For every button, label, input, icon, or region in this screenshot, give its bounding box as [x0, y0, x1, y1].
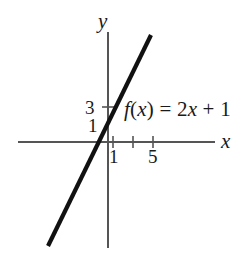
equation-plus: +	[197, 97, 220, 121]
equation-coefficient: 2	[177, 97, 188, 121]
equation-x-arg: x	[137, 97, 147, 121]
function-equation-label: f(x) = 2x + 1	[124, 99, 231, 120]
axis-label-y: y	[98, 11, 107, 32]
axis-label-x: x	[221, 131, 230, 152]
x-tick-label-5: 5	[148, 147, 158, 166]
function-line	[48, 35, 151, 246]
graph-figure: y x 3 1 1 5 f(x) = 2x + 1	[0, 0, 247, 254]
y-tick-label-1: 1	[88, 116, 98, 135]
equation-constant: 1	[220, 97, 231, 121]
equation-x-term: x	[188, 97, 198, 121]
equation-equals: =	[154, 97, 177, 121]
equation-paren-close: )	[147, 97, 154, 121]
coordinate-plane	[0, 0, 247, 254]
x-tick-label-1: 1	[109, 147, 119, 166]
